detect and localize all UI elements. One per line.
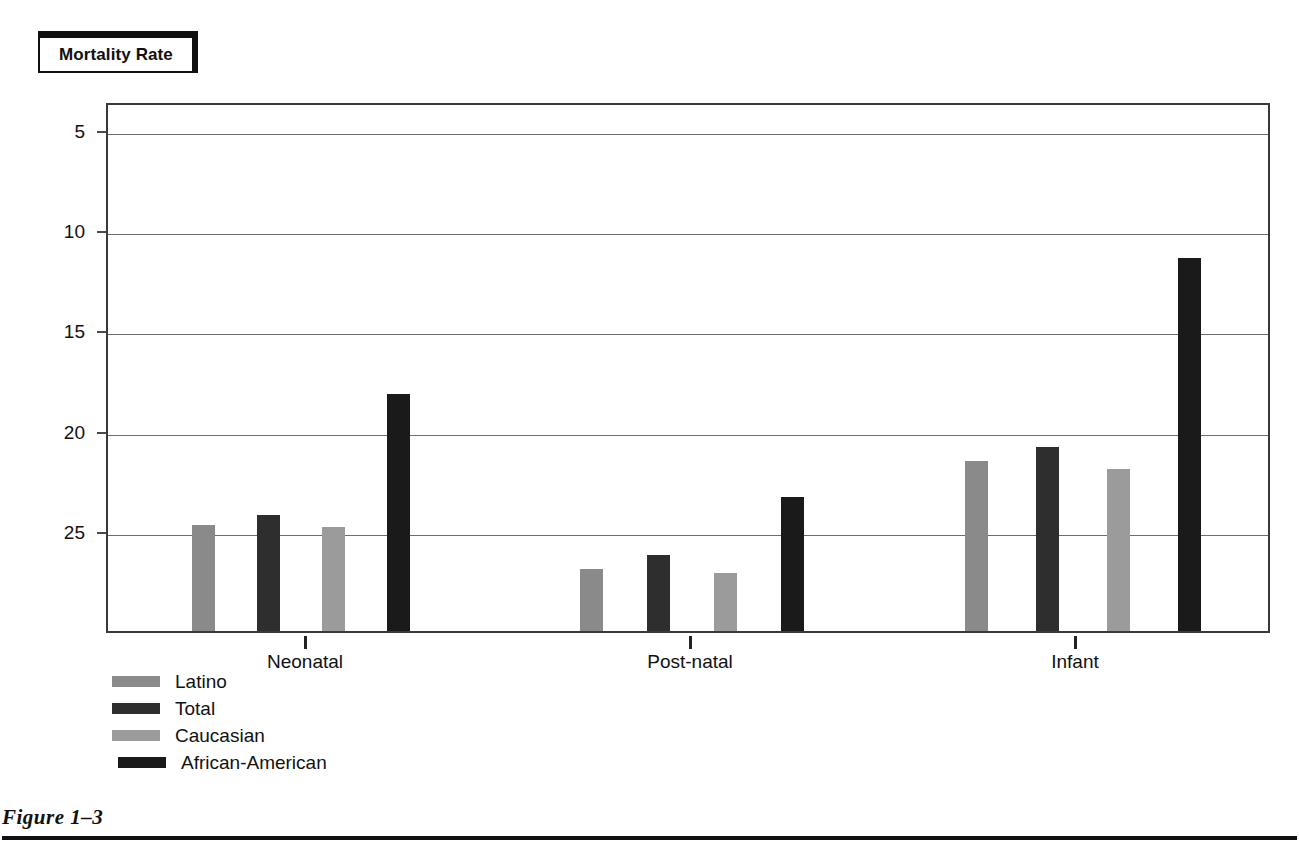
- bar-total-infant: [1036, 447, 1059, 631]
- legend-item-caucasian[interactable]: Caucasian: [112, 722, 327, 749]
- legend-swatch-icon: [118, 757, 166, 768]
- bar-african-american-post-natal: [781, 497, 804, 631]
- chart-plot-area: [106, 103, 1270, 633]
- bar-total-neonatal: [257, 515, 280, 631]
- x-tick-mark: [1074, 636, 1077, 649]
- chart-title-plate: Mortality Rate: [38, 31, 198, 73]
- x-category-label-post-natal: Post-natal: [647, 651, 733, 673]
- gridline: [108, 234, 1268, 235]
- bar-african-american-infant: [1178, 258, 1201, 631]
- bar-latino-infant: [965, 461, 988, 631]
- legend-item-total[interactable]: Total: [112, 695, 327, 722]
- bar-total-post-natal: [647, 555, 670, 631]
- bar-african-american-neonatal: [387, 394, 410, 631]
- y-tick-label: 25: [35, 522, 85, 544]
- page-title: Mortality Rate: [40, 45, 192, 65]
- chart-legend: LatinoTotalCaucasianAfrican-American: [112, 668, 327, 776]
- legend-swatch-icon: [112, 730, 160, 741]
- y-tick-label: 5: [35, 121, 85, 143]
- y-tick-mark: [97, 231, 106, 233]
- legend-item-label: African-American: [181, 752, 327, 774]
- legend-item-label: Caucasian: [175, 725, 265, 747]
- y-tick-label: 15: [35, 321, 85, 343]
- gridline: [108, 334, 1268, 335]
- legend-item-label: Latino: [175, 671, 227, 693]
- caption-divider: [2, 836, 1297, 840]
- bar-caucasian-neonatal: [322, 527, 345, 631]
- y-tick-label: 10: [35, 221, 85, 243]
- bar-caucasian-infant: [1107, 469, 1130, 631]
- y-tick-label: 20: [35, 422, 85, 444]
- y-tick-mark: [97, 532, 106, 534]
- gridline: [108, 535, 1268, 536]
- x-category-label-infant: Infant: [1051, 651, 1099, 673]
- legend-swatch-icon: [112, 703, 160, 714]
- legend-item-latino[interactable]: Latino: [112, 668, 327, 695]
- bar-caucasian-post-natal: [714, 573, 737, 631]
- y-tick-mark: [97, 331, 106, 333]
- x-tick-mark: [689, 636, 692, 649]
- y-tick-mark: [97, 131, 106, 133]
- gridline: [108, 435, 1268, 436]
- bar-latino-neonatal: [192, 525, 215, 631]
- figure-caption: Figure 1–3: [2, 805, 103, 830]
- legend-swatch-icon: [112, 676, 160, 687]
- x-tick-mark: [304, 636, 307, 649]
- bar-latino-post-natal: [580, 569, 603, 631]
- y-tick-mark: [97, 432, 106, 434]
- legend-item-label: Total: [175, 698, 215, 720]
- legend-item-african-american[interactable]: African-American: [118, 749, 327, 776]
- gridline: [108, 134, 1268, 135]
